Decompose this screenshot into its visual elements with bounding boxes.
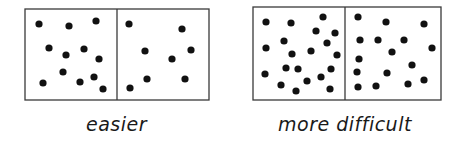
dot [374,36,381,43]
dot [178,25,185,32]
dot [388,48,395,55]
dot [45,44,52,51]
dot [187,46,194,53]
group-easier [25,9,209,100]
dot [125,20,132,27]
dot [428,44,435,51]
panel-left-dots [35,17,106,92]
dot [408,61,415,68]
dot [319,13,326,20]
dot [282,64,289,71]
dot [303,77,310,84]
dot [261,70,268,77]
dot [62,51,69,58]
dot [59,68,66,75]
dot [65,22,72,29]
dot [168,55,175,62]
dot [353,68,360,75]
dot [92,17,99,24]
dot [382,18,389,25]
dot [400,36,407,43]
dot [181,75,188,82]
label-more-difficult: more difficult [278,113,412,135]
dot [95,55,102,62]
dot [288,50,295,57]
dot [333,51,340,58]
panel-right-dots [125,20,194,91]
dot [262,18,269,25]
dot [317,73,324,80]
dot [294,65,301,72]
dot [354,13,361,20]
dot [356,36,363,43]
dot [35,20,42,27]
numerosity-comparison-figure: easier more difficult [0,0,460,145]
dot [287,19,294,26]
dot [383,69,390,76]
dot [331,29,338,36]
dot [312,27,319,34]
dot [355,55,362,62]
dot [404,80,411,87]
dot [76,78,83,85]
dot [141,47,148,54]
dot [262,44,269,51]
dot [277,81,284,88]
dot [307,47,314,54]
dot [126,84,133,91]
dot [372,82,379,89]
dot [143,75,150,82]
dot [39,79,46,86]
dot [420,76,427,83]
dot [292,87,299,94]
dot [323,39,330,46]
panel-left-dots [261,13,340,94]
group-more-difficult [253,7,441,100]
dot [280,37,287,44]
dot [326,85,333,92]
dot [90,73,97,80]
dot [80,45,87,52]
dot [420,20,427,27]
label-easier: easier [86,113,147,135]
panel-right-dots [353,13,435,90]
dot [99,85,106,92]
dot [327,65,334,72]
dot [354,83,361,90]
